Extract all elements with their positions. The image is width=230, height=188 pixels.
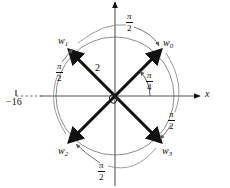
label-w0: w0 [163, 38, 173, 50]
complex-plane-figure: w0 w1 w2 w3 x −16 2 π 4 π 2 π 2 π 2 π 2 [0, 0, 230, 188]
arc-arrow-left-to-w1 [62, 49, 73, 62]
label-w1: w1 [58, 36, 68, 48]
arc-label-left: π 2 [56, 62, 63, 83]
arc-label-top: π 2 [126, 12, 133, 33]
label-w2: w2 [58, 146, 68, 158]
arc-label-left-denominator: 2 [56, 74, 63, 83]
arc-label-right-denominator: 2 [168, 122, 175, 131]
vector-w3 [115, 96, 159, 140]
arc-label-top-denominator: 2 [126, 24, 133, 33]
arc-label-right-numerator: π [168, 110, 175, 119]
arc-label-bottom-numerator: π [98, 161, 105, 170]
pi-over-4-numerator: π [146, 71, 153, 80]
label-x-axis: x [205, 89, 209, 99]
arc-top-sweep [78, 25, 126, 43]
figure-canvas [0, 0, 230, 188]
vector-w1 [72, 53, 116, 97]
arc-label-left-numerator: π [56, 62, 63, 71]
arc-label-bottom: π 2 [98, 161, 105, 182]
label-modulus-2: 2 [95, 63, 100, 73]
arc-label-right: π 2 [168, 110, 175, 131]
label-w3: w3 [162, 146, 172, 158]
arc-label-top-numerator: π [126, 12, 133, 21]
arc-label-bottom-denominator: 2 [98, 173, 105, 182]
label-pi-over-4: π 4 [146, 71, 153, 92]
label-minus-16: −16 [6, 97, 22, 107]
arc-arrow-bottom-to-w2 [76, 144, 100, 163]
pi-over-4-denominator: 4 [146, 83, 153, 92]
arc-arrow-top-to-w0 [134, 27, 159, 46]
vector-w2 [72, 96, 116, 140]
